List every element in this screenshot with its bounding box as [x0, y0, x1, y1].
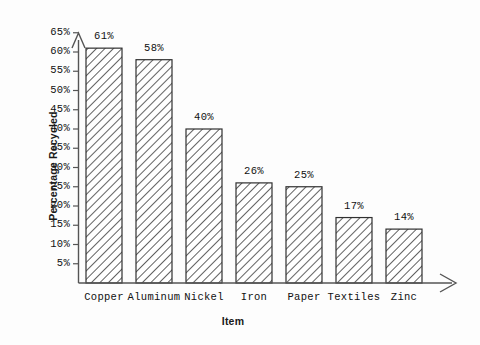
bar-value-label: 14%: [374, 211, 434, 223]
bar-value-label: 58%: [124, 42, 184, 54]
bar-value-label: 25%: [274, 169, 334, 181]
bar-value-label: 61%: [74, 30, 134, 42]
bar[interactable]: [336, 218, 372, 283]
bar[interactable]: [86, 48, 122, 283]
bar[interactable]: [136, 60, 172, 283]
bar[interactable]: [236, 183, 272, 283]
x-axis-title: Item: [183, 315, 283, 327]
y-tick-label: 65%: [24, 26, 70, 38]
bar[interactable]: [186, 129, 222, 283]
y-tick-label: 60%: [24, 45, 70, 57]
y-tick-marks: [73, 33, 79, 264]
bar[interactable]: [386, 229, 422, 283]
bar-value-label: 40%: [174, 111, 234, 123]
bar-chart: 5%10%15%20%25%30%35%40%45%50%55%60%65% C…: [0, 0, 480, 345]
x-category-label: Zinc: [359, 291, 449, 303]
y-axis-title: Percentage Recycled: [47, 71, 59, 261]
bar[interactable]: [286, 187, 322, 283]
bar-value-label: 17%: [324, 200, 384, 212]
